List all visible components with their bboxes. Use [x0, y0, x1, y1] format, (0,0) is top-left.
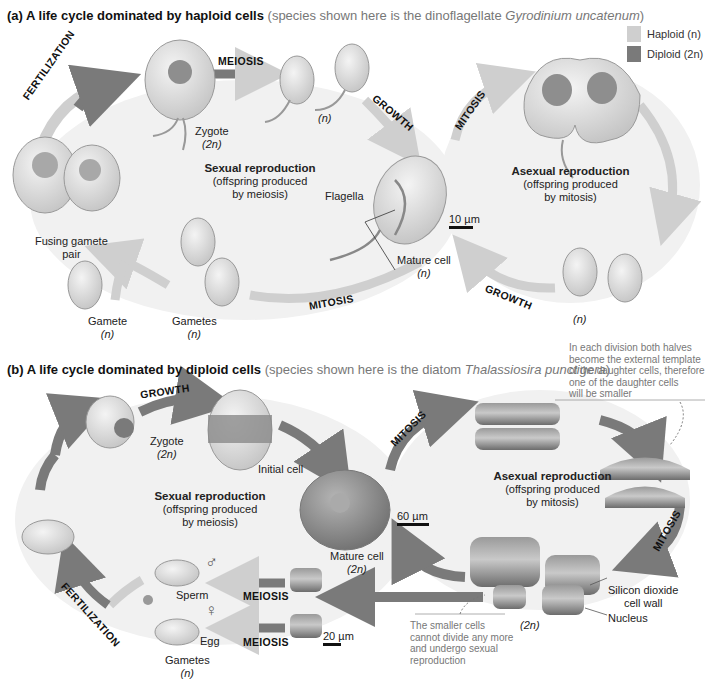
initial-cell-b	[208, 390, 272, 470]
daughter-ploidy-a: (n)	[573, 313, 586, 326]
mature-cell-label-a: Mature cell (n)	[397, 254, 451, 280]
diagram-graphics	[0, 0, 718, 682]
sexual-reproduction-caption-a: Sexual reproduction (offspring produced …	[200, 162, 320, 201]
sperm-label: Sperm	[176, 589, 208, 602]
legend-diploid: Diploid (2n)	[627, 46, 703, 62]
scale-bar-a-label: 10 µm	[449, 213, 480, 225]
sexual-line2-a: by meiosis)	[200, 188, 320, 201]
zygote-ploidy-b: (2n)	[150, 448, 184, 461]
asexual-line1-a: (offspring produced	[508, 178, 633, 191]
gamete-label-a: Gamete (n)	[88, 315, 127, 341]
sexual-reproduction-caption-b: Sexual reproduction (offspring produced …	[150, 490, 270, 529]
silicon-wall-label: Silicon dioxide cell wall	[608, 584, 678, 610]
step-meiosis-2-b: MEIOSIS	[243, 636, 289, 648]
gametes-label-a: Gametes (n)	[172, 315, 217, 341]
note-bottom-line: and undergo sexual	[410, 643, 530, 655]
diploid-swatch	[627, 46, 641, 62]
note-top-line: In each division both halves	[569, 342, 717, 354]
gametes-ploidy-a: (n)	[172, 328, 217, 341]
note-dotted-pointer-top	[670, 402, 683, 445]
flagella-label: Flagella	[325, 190, 364, 203]
zygote-text-a: Zygote	[195, 125, 229, 138]
asexual-line1-b: (offspring produced	[490, 483, 615, 496]
mature-cell-text-b: Mature cell	[330, 550, 384, 563]
note-smaller-daughter: In each division both halves become the …	[569, 342, 717, 400]
fusing-gamete-pair-cells	[13, 137, 120, 213]
panel-a-species: Gyrodinium uncatenum	[505, 8, 639, 23]
mature-cell-ploidy-a: (n)	[397, 267, 451, 280]
scale-bar-b-large-label: 60 µm	[397, 510, 429, 522]
legend: Haploid (n) Diploid (2n)	[627, 26, 703, 66]
sexual-heading-b: Sexual reproduction	[154, 490, 265, 502]
zygote-label-b: Zygote (2n)	[150, 435, 184, 461]
mature-cell-text-a: Mature cell	[397, 254, 451, 267]
gametes-ploidy-b: (n)	[165, 667, 210, 680]
note-top-line: one of the daughter cells	[569, 377, 717, 389]
note-bottom-line: reproduction	[410, 655, 530, 667]
panel-a-title-text: (a) A life cycle dominated by haploid ce…	[7, 8, 264, 23]
silicon-wall-line2: cell wall	[608, 597, 678, 610]
mature-cell-b	[300, 470, 390, 550]
asexual-line2-b: by mitosis)	[490, 496, 615, 509]
sexual-line2-b: by meiosis)	[150, 516, 270, 529]
scale-bar-b-small: 20 µm	[323, 630, 354, 646]
zygote-label-a: Zygote (2n)	[195, 125, 229, 151]
gametes-label-b: Gametes (n)	[165, 654, 210, 680]
panel-b-title-text: (b) A life cycle dominated by diploid ce…	[7, 362, 261, 377]
zygote-cell-b	[86, 396, 134, 448]
fusing-gamete-line1: Fusing gamete	[35, 235, 108, 248]
panel-a-subtitle: (species shown here is the dinoflagellat…	[268, 8, 645, 23]
panel-a-subtitle-suffix: )	[640, 8, 644, 23]
panel-a-subtitle-prefix: (species shown here is the dinoflagellat…	[268, 8, 506, 23]
scale-bar-a-line	[449, 226, 473, 229]
legend-haploid: Haploid (n)	[627, 26, 703, 42]
fusing-gamete-pair-label: Fusing gamete pair	[35, 235, 108, 261]
haploid-swatch	[627, 26, 641, 42]
mature-cell-ploidy-b: (2n)	[330, 563, 384, 576]
note-top-line: of the daughter cells, therefore	[569, 365, 717, 377]
female-symbol: ♀	[205, 604, 218, 617]
sexual-heading-a: Sexual reproduction	[204, 162, 315, 174]
gamete-ploidy-a: (n)	[88, 328, 127, 341]
legend-haploid-label: Haploid (n)	[647, 28, 701, 40]
step-meiosis-1-b: MEIOSIS	[243, 590, 289, 602]
initial-cell-label: Initial cell	[258, 463, 303, 476]
panel-b-title: (b) A life cycle dominated by diploid ce…	[7, 362, 610, 377]
silicon-wall-line1: Silicon dioxide	[608, 584, 678, 597]
zygote-ploidy-a: (2n)	[195, 138, 229, 151]
panel-b-subtitle-prefix: (species shown here is the diatom	[265, 362, 465, 377]
mature-cell-label-b: Mature cell (2n)	[330, 550, 384, 576]
gametes-text-a: Gametes	[172, 315, 217, 328]
panel-b-subtitle: (species shown here is the diatom Thalas…	[265, 362, 610, 377]
note-top-line: become the external template	[569, 354, 717, 366]
asexual-line2-a: by mitosis)	[508, 191, 633, 204]
scale-bar-b-small-line	[323, 643, 341, 646]
gamete-text-a: Gamete	[88, 315, 127, 328]
asexual-reproduction-caption-a: Asexual reproduction (offspring produced…	[508, 165, 633, 204]
nucleus-label: Nucleus	[608, 612, 648, 625]
meiosis-products-ploidy: (n)	[318, 112, 331, 125]
panel-a-title: (a) A life cycle dominated by haploid ce…	[7, 8, 644, 23]
note-top-line: will be smaller	[569, 388, 717, 400]
fusing-gamete-line2: pair	[35, 248, 108, 261]
legend-diploid-label: Diploid (2n)	[647, 48, 703, 60]
scale-bar-b-large-line	[397, 523, 429, 526]
sexual-line1-b: (offspring produced	[150, 503, 270, 516]
asexual-heading-b: Asexual reproduction	[493, 470, 611, 482]
male-symbol: ♂	[205, 556, 218, 569]
note-bottom-line: cannot divide any more	[410, 632, 530, 644]
asexual-reproduction-caption-b: Asexual reproduction (offspring produced…	[490, 470, 615, 509]
note-bottom-line: The smaller cells	[410, 620, 530, 632]
sexual-line1-a: (offspring produced	[200, 175, 320, 188]
note-smaller-cells: The smaller cells cannot divide any more…	[410, 620, 530, 666]
egg-label: Egg	[200, 635, 220, 648]
gametes-text-b: Gametes	[165, 654, 210, 667]
scale-bar-a: 10 µm	[449, 213, 480, 229]
asexual-heading-a: Asexual reproduction	[511, 165, 629, 177]
step-meiosis-a: MEIOSIS	[218, 55, 264, 67]
zygote-text-b: Zygote	[150, 435, 184, 448]
scale-bar-b-large: 60 µm	[397, 510, 429, 526]
scale-bar-b-small-label: 20 µm	[323, 630, 354, 642]
